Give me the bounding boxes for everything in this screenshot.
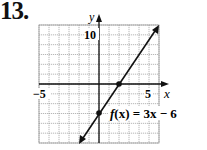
- y-tick-10: 10: [84, 28, 96, 42]
- y-axis-arrow-icon: [96, 14, 102, 22]
- x-tick-5: 5: [145, 87, 151, 101]
- point-y-intercept: [96, 110, 102, 116]
- function-label-rest: (x) = 3x − 6: [114, 106, 177, 121]
- x-tick-neg5: −5: [33, 87, 46, 101]
- point-x-intercept: [116, 81, 122, 87]
- y-axis-label: y: [88, 10, 95, 24]
- function-label: f(x) = 3x − 6: [110, 106, 177, 121]
- function-graph: 10 y −5 5 x f(x) = 3x − 6: [0, 0, 207, 150]
- x-axis-label: x: [163, 86, 170, 101]
